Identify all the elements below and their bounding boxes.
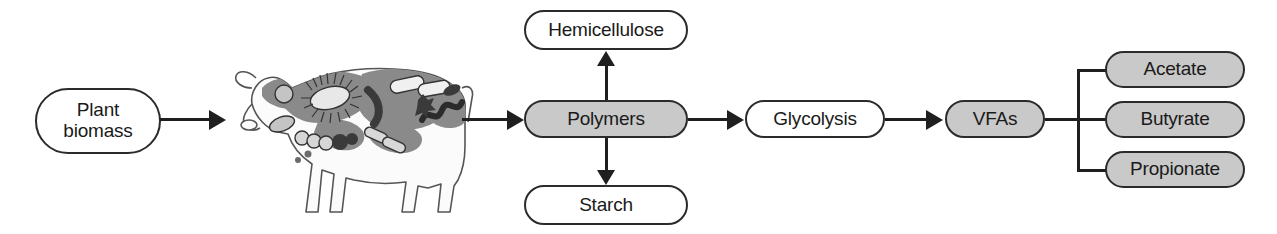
node-vfas[interactable]: VFAs [945,100,1045,138]
node-hemicellulose-label: Hemicellulose [548,20,664,41]
microbe-dark-coccus [332,134,348,150]
node-glycolysis-label: Glycolysis [773,109,857,130]
microbe-dot-2 [295,157,301,163]
node-butyrate[interactable]: Butyrate [1105,101,1245,138]
node-propionate-label: Propionate [1130,159,1220,180]
node-butyrate-label: Butyrate [1140,109,1209,130]
arrowhead-polymers-to-starch [597,170,615,185]
node-starch-label: Starch [579,195,633,216]
edge-plantbiomass-to-cow [160,118,212,121]
node-plant-biomass-label: Plant biomass [63,100,132,142]
pathway-diagram: Plant biomass [0,0,1277,234]
node-plant-biomass[interactable]: Plant biomass [35,88,161,154]
edge-polymers-to-hemicellulose [605,64,608,100]
edge-cow-to-polymers [462,118,510,121]
edge-polymers-to-starch [605,138,608,172]
node-starch[interactable]: Starch [524,185,688,225]
edge-polymers-to-glycolysis [688,118,730,121]
node-propionate[interactable]: Propionate [1105,151,1245,188]
node-acetate-label: Acetate [1143,59,1206,80]
edge-vfas-bracket-stem [1045,118,1080,121]
arrowhead-glycolysis-to-vfas [926,110,943,130]
node-acetate[interactable]: Acetate [1105,51,1245,88]
microbe-round-cell [275,85,293,103]
arrowhead-polymers-to-hemicellulose [597,51,615,66]
microbe-dark-coccus-2 [346,133,358,145]
microbe-dot-1 [305,151,312,158]
node-polymers[interactable]: Polymers [524,100,688,138]
cow-with-rumen-microbes-illustration [222,26,474,222]
node-hemicellulose[interactable]: Hemicellulose [524,10,688,50]
arrowhead-polymers-to-glycolysis [727,110,744,130]
node-vfas-label: VFAs [973,109,1018,130]
node-glycolysis[interactable]: Glycolysis [745,100,885,138]
edge-glycolysis-to-vfas [885,118,929,121]
arrowhead-cow-to-polymers [507,110,524,130]
node-polymers-label: Polymers [567,109,645,130]
